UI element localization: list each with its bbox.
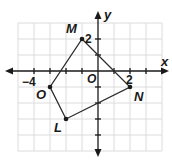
vertex-label-l: L (54, 120, 62, 135)
y-axis-down-arrow-icon (95, 149, 102, 157)
y-axis-label: y (103, 7, 112, 22)
coordinate-plane: y x O −4 2 2 M N L O (0, 0, 172, 161)
vertex-o (48, 85, 53, 90)
vertex-m (80, 37, 85, 42)
vertex-label-o: O (36, 87, 46, 102)
x-axis-left-arrow-icon (5, 68, 13, 75)
vertex-l (64, 117, 69, 122)
vertex-label-n: N (134, 89, 144, 104)
tick-label-x-neg4: −4 (22, 75, 36, 89)
tick-label-y-2: 2 (85, 32, 92, 46)
origin-label: O (87, 72, 97, 86)
x-axis-label: x (160, 54, 169, 69)
vertex-label-m: M (66, 21, 78, 36)
tick-label-x-2: 2 (126, 73, 133, 87)
y-axis-up-arrow-icon (95, 11, 102, 19)
